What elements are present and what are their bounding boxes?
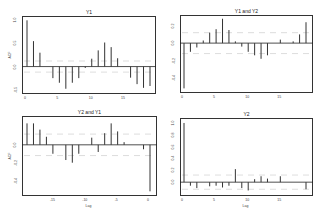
acf-bars (0, 0, 330, 212)
x-tick-label: 5 (213, 198, 215, 202)
y-tick-label: 0.0 (171, 180, 175, 185)
y-tick-label: 0.4 (171, 156, 175, 161)
y-tick-label: 0.2 (171, 168, 175, 173)
y-tick-label: 1.0 (171, 121, 175, 126)
x-tick-label: 10 (245, 198, 249, 202)
x-tick-label: 15 (277, 198, 281, 202)
y-tick-label: 0.8 (171, 132, 175, 137)
x-axis-label: Lag (243, 204, 249, 208)
y-tick-label: 0.6 (171, 144, 175, 149)
x-tick-label: 0 (181, 198, 183, 202)
